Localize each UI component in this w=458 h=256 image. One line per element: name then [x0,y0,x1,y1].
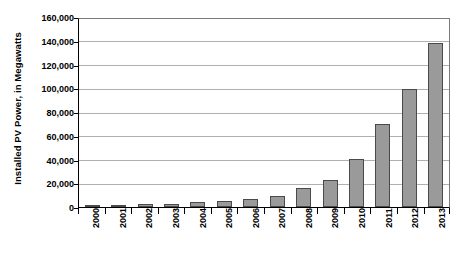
x-axis-label-slot: 2009 [317,216,344,256]
x-axis-label-slot: 2006 [237,216,264,256]
x-axis-tick-mark [397,208,398,214]
bar-slot [105,19,131,207]
x-axis-label-slot: 2010 [344,216,371,256]
x-axis-label-slot: 2000 [78,216,105,256]
x-axis-label-slot: 2007 [264,216,291,256]
x-axis-label-slot: 2011 [370,216,397,256]
bar-slot [317,19,343,207]
x-axis-tick-mark [291,208,292,214]
x-axis-tick-mark [424,208,425,214]
bar [138,204,153,207]
bar-slot [422,19,448,207]
y-axis-tick-label: 100,000 [41,84,74,94]
bars-layer [79,19,449,207]
x-axis-tick-mark [344,208,345,214]
x-axis-tick-mark [105,208,106,214]
x-axis-tick-mark [211,208,212,214]
x-axis-tick-label: 2000 [91,208,101,228]
y-axis-tick-label: 40,000 [46,156,74,166]
x-axis-ticks [78,208,450,215]
bar [111,205,126,207]
y-axis-tick-label: 160,000 [41,13,74,23]
x-axis-tick-mark [237,208,238,214]
y-axis-tick-labels: 160,000140,000120,000100,00080,00060,000… [26,18,78,208]
bar-slot [343,19,369,207]
y-axis-title-text: Installed PV Power, in Megawatts [12,32,23,185]
x-axis-label-slot: 2001 [105,216,132,256]
bar [164,204,179,207]
bar [190,202,205,207]
x-axis-tick-label: 2001 [118,208,128,228]
x-axis-tick-label: 2009 [330,208,340,228]
x-axis-tick-mark [264,208,265,214]
x-axis-tick-label: 2004 [198,208,208,228]
bar [217,201,232,207]
x-axis-tick-label: 2010 [357,208,367,228]
x-axis-tick-label: 2002 [144,208,154,228]
x-axis-tick-label: 2003 [171,208,181,228]
bar-slot [396,19,422,207]
x-axis-label-slot: 2003 [158,216,185,256]
bar [270,196,285,207]
x-axis-tick-mark [131,208,132,214]
bar [428,43,443,207]
y-axis-tick-label: 120,000 [41,61,74,71]
x-axis-tick-label: 2007 [277,208,287,228]
y-axis-tick-label: 80,000 [46,108,74,118]
x-axis-label-slot: 2013 [424,216,451,256]
bar-slot [158,19,184,207]
bar-chart: Installed PV Power, in Megawatts 160,000… [0,0,458,256]
x-axis-endcap-tick [449,208,450,214]
bar-slot [185,19,211,207]
plot-area [78,18,450,208]
bar-slot [370,19,396,207]
x-axis-tick-label: 2008 [304,208,314,228]
x-axis-tick-mark [78,208,79,214]
x-axis-tick-mark [184,208,185,214]
x-axis-label-slot: 2012 [397,216,424,256]
x-axis-tick-mark [370,208,371,214]
x-axis-tick-label: 2005 [224,208,234,228]
x-axis-tick-label: 2006 [251,208,261,228]
bar-slot [211,19,237,207]
bar [349,159,364,207]
x-axis-tick-label: 2013 [437,208,447,228]
y-axis-tick-label: 140,000 [41,37,74,47]
bar-slot [264,19,290,207]
bar [85,205,100,207]
x-axis-label-slot: 2008 [291,216,318,256]
bar [402,89,417,207]
bar-slot [238,19,264,207]
x-axis-tick-mark [158,208,159,214]
x-axis-tick-label: 2012 [410,208,420,228]
x-axis-tick-mark [317,208,318,214]
x-axis-label-slot: 2005 [211,216,238,256]
bar-slot [132,19,158,207]
x-axis-label-slot: 2002 [131,216,158,256]
bar [375,124,390,207]
bar-slot [79,19,105,207]
bar-slot [290,19,316,207]
y-axis-tick-label: 60,000 [46,132,74,142]
bar [243,199,258,207]
y-axis-title: Installed PV Power, in Megawatts [8,0,26,216]
x-axis-tick-labels: 2000200120022003200420052006200720082009… [78,216,450,256]
x-axis-tick-label: 2011 [384,208,394,228]
x-axis-label-slot: 2004 [184,216,211,256]
bar [323,180,338,207]
y-axis-tick-label: 20,000 [46,179,74,189]
bar [296,188,311,207]
